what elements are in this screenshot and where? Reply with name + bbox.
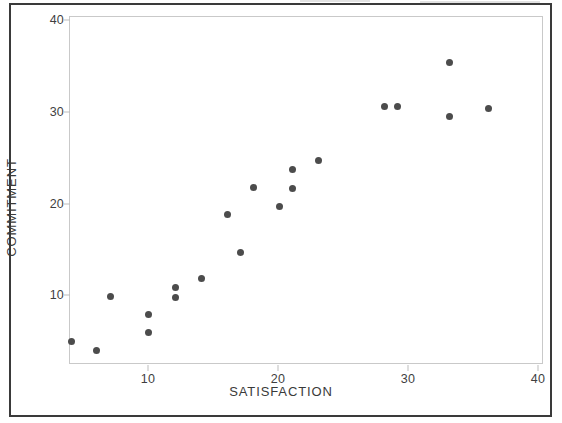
data-point bbox=[485, 105, 492, 112]
data-point bbox=[93, 347, 100, 354]
data-point bbox=[315, 157, 322, 164]
scatter-plot-figure: 1020304010203040 SATISFACTION COMMITMENT bbox=[0, 0, 562, 423]
data-point bbox=[381, 103, 388, 110]
data-point bbox=[172, 284, 179, 291]
data-point bbox=[289, 185, 296, 192]
data-point bbox=[446, 59, 453, 66]
x-tick-mark bbox=[278, 365, 279, 371]
y-tick-mark bbox=[64, 111, 70, 112]
data-point bbox=[394, 103, 401, 110]
x-tick-mark bbox=[538, 365, 539, 371]
y-tick-mark bbox=[64, 20, 70, 21]
data-point bbox=[68, 338, 75, 345]
data-point bbox=[237, 249, 244, 256]
y-axis-label: COMMITMENT bbox=[4, 158, 19, 257]
y-tick-mark bbox=[64, 295, 70, 296]
plot-area bbox=[69, 16, 543, 364]
data-point bbox=[289, 166, 296, 173]
data-point bbox=[224, 211, 231, 218]
x-tick-mark bbox=[148, 365, 149, 371]
y-tick-label: 40 bbox=[38, 13, 64, 27]
y-tick-mark bbox=[64, 203, 70, 204]
x-axis-label: SATISFACTION bbox=[0, 384, 562, 399]
data-point bbox=[107, 293, 114, 300]
y-tick-label: 10 bbox=[38, 288, 64, 302]
y-tick-label: 20 bbox=[38, 197, 64, 211]
scan-artifact bbox=[300, 0, 370, 2]
data-point bbox=[172, 294, 179, 301]
data-point bbox=[145, 311, 152, 318]
data-point bbox=[250, 184, 257, 191]
data-point bbox=[145, 329, 152, 336]
data-point bbox=[276, 203, 283, 210]
x-tick-mark bbox=[408, 365, 409, 371]
y-tick-label: 30 bbox=[38, 105, 64, 119]
